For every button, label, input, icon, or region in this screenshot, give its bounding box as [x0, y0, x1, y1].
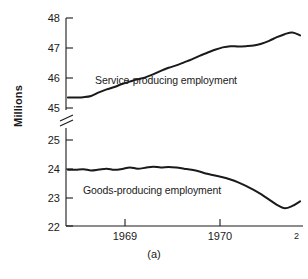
series-line-goods-producing — [68, 167, 300, 209]
series-line-service-producing — [68, 32, 300, 97]
axis-break-icon — [60, 115, 73, 126]
figure-caption: (a) — [0, 248, 308, 260]
chart-canvas — [0, 0, 308, 279]
figure-panel-a: Millions 48 47 46 45 25 24 23 22 1969 19… — [0, 0, 308, 279]
